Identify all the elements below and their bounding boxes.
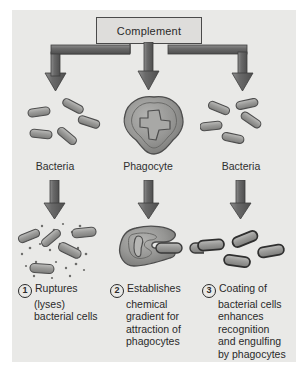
caption-2-line-2: chemical [110,298,198,310]
second-arrow-group [0,180,308,220]
caption-1-line-2: (lyses) [18,298,106,310]
arrow-elbow-left [45,44,130,91]
caption-3-line-6: by phagocytes [202,348,290,360]
lysed-rods [17,227,96,274]
phagocyte-cell [118,94,190,160]
caption-3-line-4: recognition [202,323,290,335]
caption-3-line-3: enhances [202,310,290,322]
top-arrow-group [0,42,308,94]
arrow-straight-right [230,180,251,219]
arrow-straight-center-top [138,42,159,90]
bacteria-cluster-right [200,98,286,160]
caption-1-number: 1 [18,284,32,298]
complement-pathway-figure: Complement [0,0,308,376]
caption-2-line-5: phagocytes [110,335,198,347]
caption-3: 3Coating of bacterial cells enhances rec… [202,282,290,360]
caption-2-line-4: attraction of [110,323,198,335]
caption-3-line-5: and engulfing [202,335,290,347]
arrow-straight-left [44,180,65,219]
arrow-elbow-right [168,45,253,91]
phagocyte-engulfing-illustration [112,222,204,280]
coated-bacteria-illustration [196,224,288,280]
caption-2: 2Establishes chemical gradient for attra… [110,282,198,348]
complement-box: Complement [96,17,202,44]
label-bacteria-right: Bacteria [196,160,286,172]
engulfed-bacterium [156,243,182,253]
caption-1-line-3: bacterial cells [18,310,106,322]
label-bacteria-left: Bacteria [10,160,100,172]
caption-3-line-1: Coating of [219,282,267,294]
bacteria-cluster-left [26,98,112,160]
label-phagocyte: Phagocyte [103,160,193,172]
caption-1-line-1: Ruptures [35,282,78,294]
caption-2-line-3: gradient for [110,310,198,322]
caption-3-line-2: bacterial cells [202,298,290,310]
arrow-straight-center-second [138,180,159,219]
caption-2-number: 2 [110,284,124,298]
lysed-bacteria-illustration [16,220,108,282]
complement-box-label: Complement [117,25,181,37]
caption-3-number: 3 [202,284,216,298]
caption-2-line-1: Establishes [127,282,181,294]
caption-1: 1Ruptures (lyses) bacterial cells [18,282,106,323]
